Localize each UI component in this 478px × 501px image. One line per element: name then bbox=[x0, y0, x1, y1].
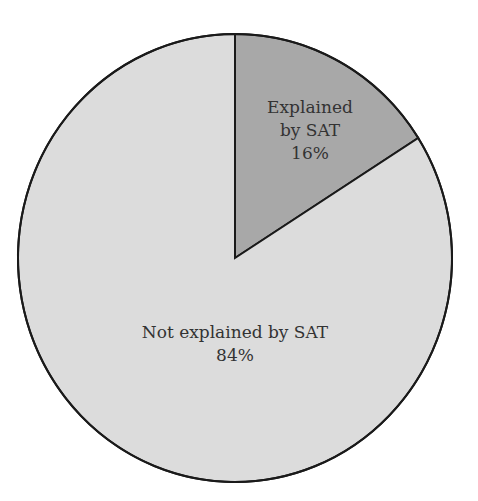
pie-chart: Explained by SAT 16% Not explained by SA… bbox=[0, 0, 478, 501]
slice-label-not-explained: Not explained by SAT bbox=[142, 322, 329, 342]
slice-label-explained: Explained bbox=[267, 97, 353, 117]
slice-value-explained: 16% bbox=[291, 143, 329, 163]
slice-label-explained-line2: by SAT bbox=[280, 120, 341, 140]
slice-value-not-explained: 84% bbox=[216, 345, 254, 365]
